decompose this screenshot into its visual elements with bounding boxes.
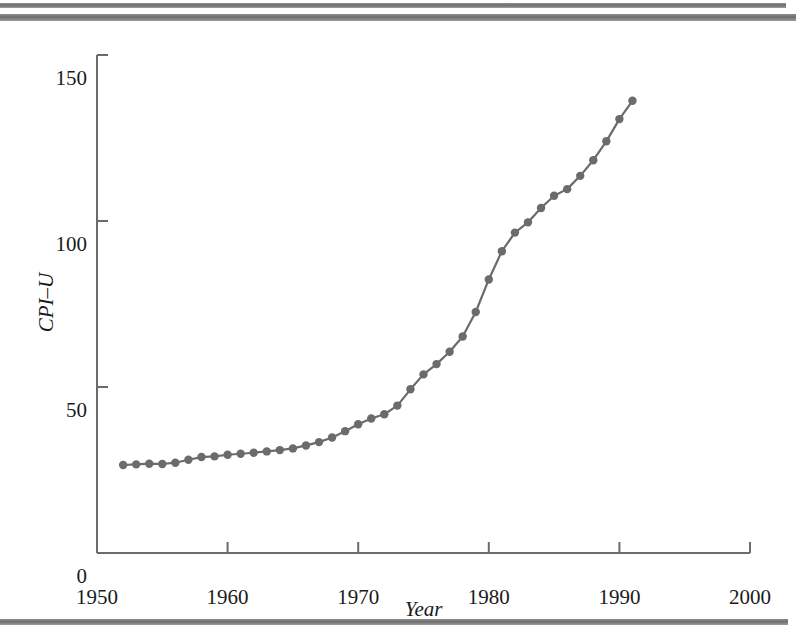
chart-ticks: [97, 55, 750, 553]
figure-page: CPI–U Year 050100150 1950196019701980199…: [0, 0, 796, 638]
x-tick-label: 2000: [705, 587, 795, 608]
y-tick-label: 50: [27, 400, 87, 421]
x-tick-label: 1970: [313, 587, 403, 608]
top-rule-upper: [0, 3, 786, 8]
y-axis-title: CPI–U: [36, 243, 57, 363]
top-rule-lower: [0, 14, 796, 21]
x-tick-label: 1980: [444, 587, 534, 608]
x-tick-label: 1950: [52, 587, 142, 608]
line-chart-figure: CPI–U Year 050100150 1950196019701980199…: [0, 24, 796, 616]
chart-axes: [97, 55, 750, 553]
cpiu-data-line: [123, 101, 632, 465]
y-tick-label: 100: [27, 234, 87, 255]
y-tick-label: 150: [27, 68, 87, 89]
chart-plot-area: [0, 24, 796, 616]
x-tick-label: 1960: [183, 587, 273, 608]
cpiu-data-markers: [119, 97, 637, 470]
bottom-rule: [0, 619, 788, 625]
x-tick-label: 1990: [574, 587, 664, 608]
y-tick-label: 0: [27, 566, 87, 587]
